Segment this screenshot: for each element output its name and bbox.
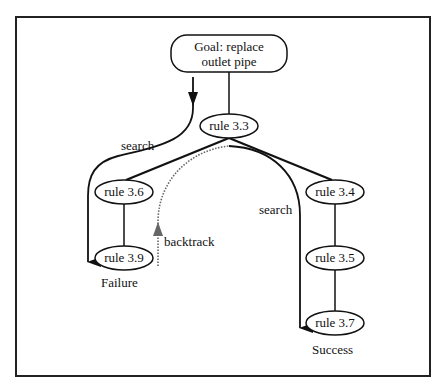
node-rule-3-6: rule 3.6 (95, 180, 153, 204)
node-rule-3-9: rule 3.9 (95, 246, 153, 270)
node-rule-3-5: rule 3.5 (306, 246, 364, 270)
node-rule-3-3: rule 3.3 (200, 114, 258, 138)
node-label: rule 3.4 (315, 184, 355, 199)
success-label: Success (312, 342, 353, 357)
node-label: rule 3.6 (104, 184, 144, 199)
edge-rule-3-3-rule-3-4 (229, 138, 332, 180)
goal-node: Goal: replace outlet pipe (171, 35, 287, 72)
search-label-right: search (259, 202, 293, 217)
failure-label: Failure (101, 275, 138, 290)
goal-line-1: Goal: replace (194, 39, 264, 54)
search-arrow-right (229, 146, 300, 328)
node-rule-3-7: rule 3.7 (306, 311, 364, 335)
node-label: rule 3.7 (315, 315, 355, 330)
search-tree-diagram: Goal: replace outlet pipe rule 3.3 rule … (0, 0, 448, 390)
node-label: rule 3.5 (315, 250, 355, 265)
backtrack-label: backtrack (164, 234, 215, 249)
goal-line-2: outlet pipe (201, 54, 256, 69)
tree-edges (124, 71, 335, 311)
search-label-left: search (121, 138, 155, 153)
backtrack-arrowhead (153, 222, 163, 236)
search-arrowhead-top (188, 92, 198, 106)
node-label: rule 3.3 (209, 118, 249, 133)
node-rule-3-4: rule 3.4 (306, 180, 364, 204)
node-label: rule 3.9 (104, 250, 144, 265)
